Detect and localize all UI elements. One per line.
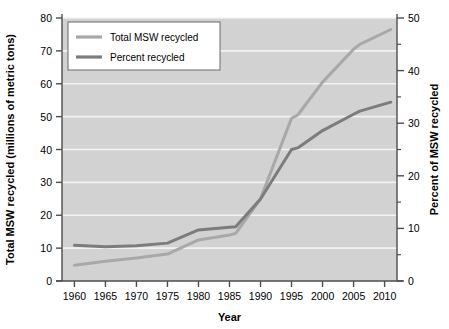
x-tick-label: 2005 xyxy=(342,290,366,302)
chart-legend: Total MSW recycledPercent recycled xyxy=(68,22,220,70)
y-tick-label-left: 0 xyxy=(46,275,52,287)
x-tick-label: 1965 xyxy=(94,290,118,302)
y-tick-label-left: 80 xyxy=(40,12,52,24)
y-tick-label-right: 40 xyxy=(408,65,420,77)
recycling-line-chart: 1960196519701975198019851990199520002005… xyxy=(0,0,449,329)
x-tick-label: 2010 xyxy=(373,290,397,302)
x-tick-label: 1980 xyxy=(187,290,211,302)
y-tick-label-left: 10 xyxy=(40,242,52,254)
y-tick-label-left: 20 xyxy=(40,209,52,221)
y-tick-label-left: 30 xyxy=(40,176,52,188)
x-tick-label: 1970 xyxy=(125,290,149,302)
y-tick-label-right: 30 xyxy=(408,117,420,129)
x-tick-label: 1995 xyxy=(280,290,304,302)
x-tick-label: 1985 xyxy=(218,290,242,302)
y-tick-label-left: 70 xyxy=(40,45,52,57)
y-tick-label-left: 40 xyxy=(40,144,52,156)
chart-container: 1960196519701975198019851990199520002005… xyxy=(0,0,449,329)
x-tick-label: 1960 xyxy=(63,290,87,302)
x-axis-title: Year xyxy=(218,311,242,323)
y-tick-label-right: 10 xyxy=(408,222,420,234)
x-tick-label: 1975 xyxy=(156,290,180,302)
x-tick-label: 1990 xyxy=(249,290,273,302)
legend-label-total-msw-recycled: Total MSW recycled xyxy=(110,32,198,43)
y-tick-label-left: 60 xyxy=(40,78,52,90)
x-tick-label: 2000 xyxy=(311,290,335,302)
y-axis-left-title: Total MSW recycled (millions of metric t… xyxy=(4,34,16,265)
y-tick-label-right: 50 xyxy=(408,12,420,24)
y-tick-label-right: 0 xyxy=(408,275,414,287)
y-tick-label-right: 20 xyxy=(408,170,420,182)
legend-label-percent-recycled: Percent recycled xyxy=(110,52,184,63)
y-tick-label-left: 50 xyxy=(40,111,52,123)
y-axis-right-title: Percent of MSW recycled xyxy=(428,84,440,215)
